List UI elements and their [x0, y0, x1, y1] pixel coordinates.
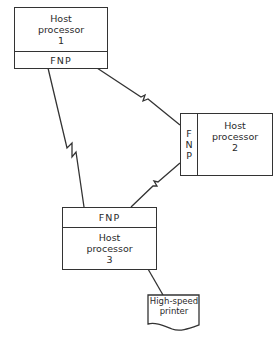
host3-title-line1: Host [99, 232, 121, 243]
high-speed-printer: High-speed printer [148, 296, 200, 316]
host1-number: 1 [58, 35, 64, 46]
link-host1-host3 [48, 68, 84, 207]
host1-fnp: FNP [15, 51, 107, 68]
host3-fnp-label: FNP [99, 212, 120, 223]
host2-fnp: F N P [181, 114, 198, 175]
host-processor-2: F N P Host processor 2 [180, 113, 273, 176]
host-processor-2-label: Host processor 2 [198, 114, 272, 158]
host2-fnp-letter-f: F [186, 128, 191, 139]
host1-fnp-label: FNP [50, 55, 71, 66]
host-processor-1: Host processor 1 FNP [14, 7, 108, 69]
host2-fnp-letter-p: P [186, 150, 192, 161]
host2-title-line2: processor [212, 131, 258, 142]
host-processor-3: FNP Host processor 3 [62, 207, 157, 270]
printer-label-line2: printer [148, 306, 200, 316]
host2-title-line1: Host [224, 120, 246, 131]
link-host2-host3 [131, 163, 180, 207]
host3-number: 3 [106, 254, 112, 265]
host2-number: 2 [232, 142, 238, 153]
link-host1-host2 [97, 68, 180, 125]
host1-title-line2: processor [38, 24, 84, 35]
host-processor-1-label: Host processor 1 [15, 8, 107, 51]
printer-label-line1: High-speed [148, 296, 200, 306]
host3-title-line2: processor [86, 243, 132, 254]
host1-title-line1: Host [50, 13, 72, 24]
host3-fnp: FNP [63, 208, 156, 227]
link-host3-printer [148, 269, 163, 295]
host2-fnp-letter-n: N [185, 139, 192, 150]
host-processor-3-label: Host processor 3 [63, 227, 156, 269]
